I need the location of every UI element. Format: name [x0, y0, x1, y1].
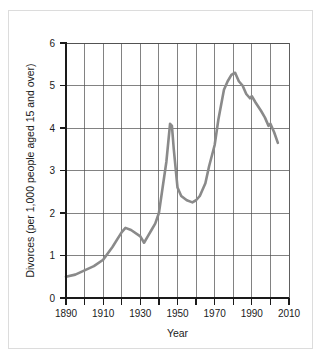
y-tick-label-5: 5 — [49, 80, 55, 91]
x-tick-label-2010: 2010 — [278, 308, 301, 319]
x-tick-label-1990: 1990 — [241, 308, 264, 319]
x-axis-title: Year — [167, 327, 189, 339]
y-tick-label-6: 6 — [49, 38, 55, 49]
chart-figure: 6 5 4 3 2 1 0 1890 1910 1930 1950 1970 1… — [0, 0, 326, 359]
y-tick-label-4: 4 — [49, 123, 55, 134]
x-tick-marks — [66, 298, 289, 305]
y-tick-label-1: 1 — [49, 250, 55, 261]
line-chart: 6 5 4 3 2 1 0 1890 1910 1930 1950 1970 1… — [0, 0, 326, 359]
x-tick-label-1970: 1970 — [204, 308, 227, 319]
x-tick-label-1930: 1930 — [129, 308, 152, 319]
y-axis-title: Divorces (per 1,000 people aged 15 and o… — [24, 63, 36, 277]
y-tick-label-3: 3 — [49, 165, 55, 176]
y-tick-marks — [60, 43, 66, 298]
y-tick-label-2: 2 — [49, 208, 55, 219]
x-tick-label-1910: 1910 — [92, 308, 115, 319]
x-tick-label-1950: 1950 — [166, 308, 189, 319]
x-tick-label-1890: 1890 — [55, 308, 78, 319]
y-tick-label-0: 0 — [49, 293, 55, 304]
